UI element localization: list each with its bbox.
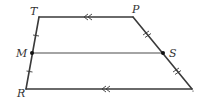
tick-mark-MR <box>27 71 33 72</box>
label-R: R <box>16 87 25 97</box>
label-M: M <box>15 47 28 60</box>
point-S <box>161 51 165 55</box>
label-T: T <box>30 5 39 18</box>
trapezoid-diagram: T P M S R <box>0 0 197 97</box>
point-M <box>30 51 34 55</box>
tick-mark-TM <box>33 35 39 36</box>
point-corner-Q <box>192 90 193 91</box>
label-S: S <box>169 47 177 60</box>
label-P: P <box>131 3 140 16</box>
